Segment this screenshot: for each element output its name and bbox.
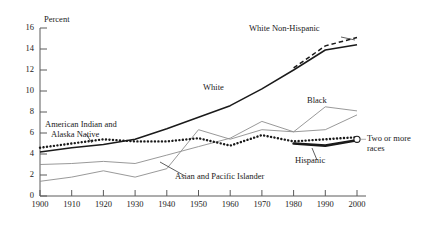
- chart-plot-area: [0, 0, 422, 225]
- y-tick-label-12: 12: [16, 65, 34, 74]
- y-tick-label-14: 14: [16, 44, 34, 53]
- x-tick-label-1930: 1930: [120, 200, 150, 209]
- y-tick-label-10: 10: [16, 86, 34, 95]
- y-tick-label-8: 8: [16, 107, 34, 116]
- y-tick-marks: [40, 28, 47, 196]
- x-tick-label-1960: 1960: [215, 200, 245, 209]
- y-tick-label-2: 2: [16, 170, 34, 179]
- series-label-black: Black: [307, 96, 327, 105]
- series-label-asian-pacific-islander: Asian and Pacific Islander: [175, 172, 264, 181]
- y-tick-label-6: 6: [16, 128, 34, 137]
- series-label-white: White: [203, 83, 224, 92]
- x-tick-label-1940: 1940: [152, 200, 182, 209]
- x-tick-label-1920: 1920: [88, 200, 118, 209]
- y-axis-title: Percent: [44, 15, 70, 24]
- series-label-american-indian-line2: Alaska Native: [51, 130, 99, 139]
- x-tick-label-1910: 1910: [57, 200, 87, 209]
- series-label-american-indian-line1: American Indian and: [45, 120, 117, 129]
- series-label-two-or-more-line2: races: [367, 144, 384, 153]
- series-marker-two-or-more-races: [354, 136, 360, 142]
- x-tick-label-1970: 1970: [247, 200, 277, 209]
- series-label-two-or-more-line1: Two or more: [367, 134, 411, 143]
- x-tick-label-1980: 1980: [279, 200, 309, 209]
- x-tick-label-2000: 2000: [342, 200, 372, 209]
- series-label-white-non-hispanic: White Non-Hispanic: [249, 24, 320, 33]
- x-tick-label-1950: 1950: [184, 200, 214, 209]
- series-label-hispanic: Hispanic: [295, 156, 325, 165]
- y-tick-label-16: 16: [16, 23, 34, 32]
- chart-figure: Percent 16 14 12 10 8 6 4 2 0 1900 1910 …: [0, 0, 422, 225]
- x-tick-label-1990: 1990: [310, 200, 340, 209]
- x-tick-label-1900: 1900: [25, 200, 55, 209]
- y-tick-label-4: 4: [16, 149, 34, 158]
- x-tick-marks: [40, 190, 357, 196]
